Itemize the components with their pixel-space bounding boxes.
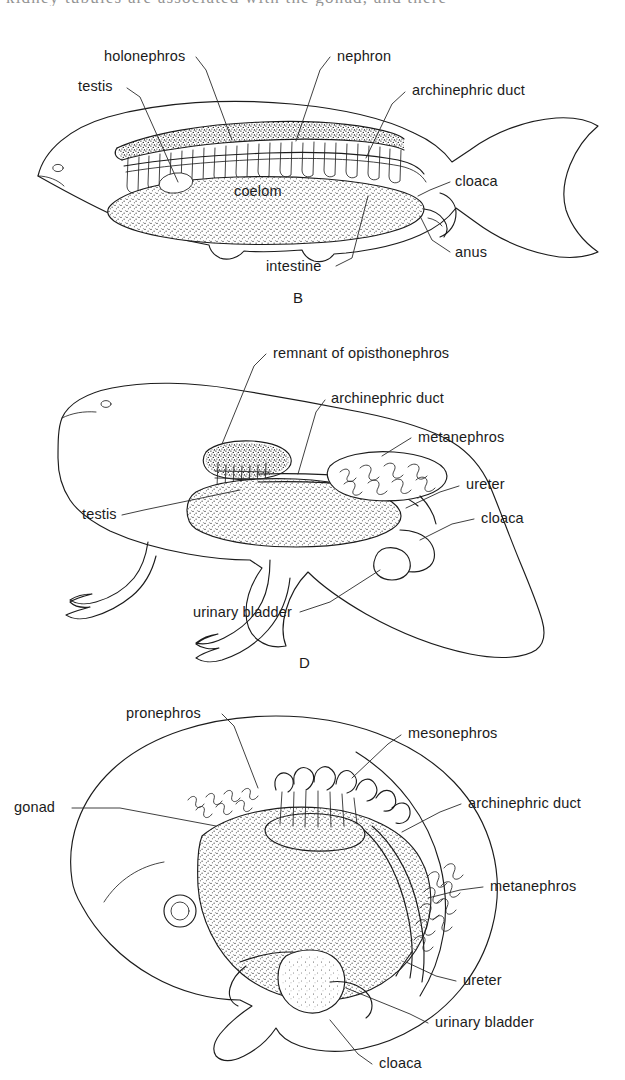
intestine-fish-2 xyxy=(428,218,442,226)
pronephros-tubules xyxy=(188,788,258,817)
label-testis: testis xyxy=(78,78,113,94)
panel-embryo-drawing: pronephros mesonephros gonad archinephri… xyxy=(14,705,581,1071)
salamander-snout xyxy=(62,412,96,418)
label-gonad-e: gonad xyxy=(14,799,55,815)
label-remnant-of-opisthonephros: remnant of opisthonephros xyxy=(273,345,449,361)
intestine-fish xyxy=(424,209,447,237)
label-cloaca-d: cloaca xyxy=(481,510,525,526)
label-archinephric-duct-e: archinephric duct xyxy=(468,795,581,811)
cloaca-fish xyxy=(440,193,456,237)
label-cloaca-e: cloaca xyxy=(379,1055,423,1071)
leader-cloaca-e xyxy=(330,1020,372,1064)
label-archinephric-duct: archinephric duct xyxy=(412,82,525,98)
label-testis-d: testis xyxy=(82,506,117,522)
leader-gonad-e xyxy=(72,808,216,826)
label-cloaca: cloaca xyxy=(455,173,499,189)
leader-archinephric-duct-e xyxy=(402,804,461,832)
fish-eye xyxy=(53,164,63,171)
label-pronephros-e: pronephros xyxy=(126,705,201,721)
salamander-eye xyxy=(101,401,111,408)
embryo-head-fold xyxy=(104,862,164,902)
leader-cloaca xyxy=(418,182,450,196)
embryo-lens xyxy=(171,902,189,920)
label-metanephros-d: metanephros xyxy=(418,429,504,445)
urinary-bladder-salamander xyxy=(374,548,411,580)
label-holonephros: holonephros xyxy=(104,48,185,64)
label-mesonephros-e: mesonephros xyxy=(408,725,498,741)
opisthonephros-remnant-fill xyxy=(206,443,289,478)
label-nephron: nephron xyxy=(337,48,391,64)
leader-remnant-opisthonephros xyxy=(222,354,266,444)
label-archinephric-duct-d: archinephric duct xyxy=(331,390,444,406)
label-ureter-d: ureter xyxy=(466,476,505,492)
panel-b-drawing: holonephros nephron testis archinephric … xyxy=(38,48,598,306)
fish-mouth xyxy=(38,176,64,186)
panel-d-drawing: remnant of opisthonephros archinephric d… xyxy=(58,345,544,671)
leader-cloaca-d xyxy=(420,519,474,540)
label-coelom: coelom xyxy=(234,183,282,199)
panel-letter-d: D xyxy=(299,654,310,671)
leader-archinephric-duct-d xyxy=(298,400,325,474)
figure-root: kidney tubules are associated with the g… xyxy=(0,0,625,1080)
label-anus: anus xyxy=(455,244,487,260)
salamander-front-leg xyxy=(66,542,156,619)
leader-metanephros-e xyxy=(428,887,483,898)
label-ureter-e: ureter xyxy=(463,972,502,988)
leader-pronephros-e xyxy=(222,714,258,788)
metanephros-salamander-outline xyxy=(327,452,447,501)
leader-mesonephros-e xyxy=(352,735,401,778)
leader-urinary-bladder-e xyxy=(346,988,428,1023)
label-metanephros-e: metanephros xyxy=(490,878,576,894)
label-intestine: intestine xyxy=(266,258,321,274)
label-urinary-bladder-e: urinary bladder xyxy=(435,1014,534,1030)
figure-svg: holonephros nephron testis archinephric … xyxy=(0,0,625,1080)
leader-ureter-e xyxy=(406,962,456,981)
label-urinary-bladder-d: urinary bladder xyxy=(193,604,292,620)
panel-letter-b: B xyxy=(293,289,303,306)
